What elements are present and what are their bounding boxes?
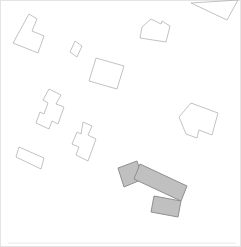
buildings-layer <box>0 0 241 247</box>
building-outline-large-right-notched[interactable] <box>179 103 218 138</box>
building-outline-notched-top-right[interactable] <box>140 19 170 42</box>
building-outline-l-shape-top-left[interactable] <box>13 14 44 53</box>
map-canvas <box>0 0 241 247</box>
building-outline-triangle-top-corner[interactable] <box>191 0 238 20</box>
building-outline-rect-bottom-left[interactable] <box>16 147 44 169</box>
highlighted-building-main-block[interactable] <box>134 164 187 201</box>
building-outline-zigzag-left[interactable] <box>36 89 64 129</box>
building-outline-rect-top-middle[interactable] <box>89 58 124 89</box>
building-outline-small-square[interactable] <box>70 41 82 57</box>
building-outline-zigzag-middle[interactable] <box>72 122 96 161</box>
